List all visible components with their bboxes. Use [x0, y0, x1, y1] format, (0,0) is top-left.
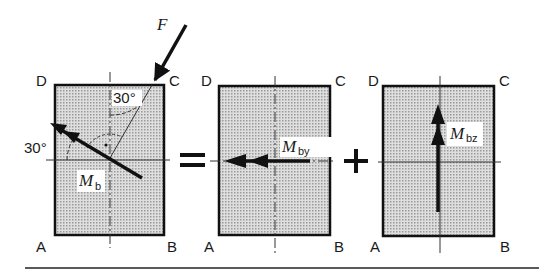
moment-subscript: b [95, 180, 101, 192]
corner-a: A [370, 238, 380, 255]
corner-b: B [167, 238, 177, 255]
moment-label: M [449, 124, 465, 143]
corner-c: C [335, 72, 346, 89]
force-label: F [156, 15, 168, 34]
angle-label-left: 30° [24, 139, 47, 156]
corner-a: A [204, 238, 214, 255]
panel-3: D C A B M bz [368, 72, 510, 255]
moment-label: M [281, 137, 297, 156]
moment-subscript: by [298, 145, 310, 157]
corner-c: C [499, 72, 510, 89]
moment-decomposition-diagram: D C A B F 30° 30° M b D C A B M by [0, 0, 539, 273]
corner-a: A [36, 238, 46, 255]
corner-d: D [368, 72, 379, 89]
angle-label-top: 30° [113, 89, 136, 106]
corner-b: B [334, 238, 344, 255]
panel-2: D C A B M by [201, 72, 346, 256]
corner-d: D [36, 72, 47, 89]
corner-d: D [201, 72, 212, 89]
equals-sign [180, 153, 205, 167]
plus-sign [344, 149, 368, 173]
moment-subscript: bz [466, 132, 478, 144]
corner-c: C [169, 72, 180, 89]
corner-b: B [500, 238, 510, 255]
panel-1: D C A B F 30° 30° M b [24, 15, 186, 255]
moment-label: M [78, 171, 94, 190]
right-angle-dot [104, 143, 107, 146]
